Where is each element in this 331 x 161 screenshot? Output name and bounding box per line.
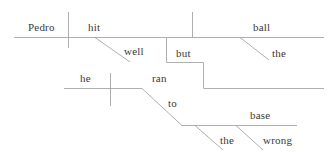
word-label-to: to [168,98,177,109]
word-label-he: he [80,73,91,84]
word-label-but: but [176,48,191,59]
modifier-line-the-ball [240,38,269,61]
sentence-diagram: Pedro hit ball well but the he ran to ba… [0,0,331,161]
word-label-the-ball: the [272,48,286,59]
word-label-the-base: the [220,135,234,146]
word-label-pedro: Pedro [28,22,55,33]
word-label-well: well [124,46,144,57]
modifier-line-the-base [195,126,223,151]
word-label-ran: ran [152,73,167,84]
word-label-ball: ball [253,22,270,33]
word-label-wrong: wrong [263,135,292,146]
word-label-base: base [250,110,270,121]
modifier-line-wrong [236,126,263,151]
word-label-hit: hit [88,22,100,33]
